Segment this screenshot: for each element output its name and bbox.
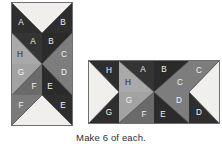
patch-label-H: H	[106, 66, 112, 75]
horizontal-block: H G A H B C	[88, 60, 220, 124]
patch-label-E: E	[47, 82, 53, 91]
vertical-pinwheel-bottom-right: D E	[42, 64, 72, 95]
vertical-pinwheel-top-left: A H	[12, 33, 42, 64]
horizontal-pinwheel-bottom-left: G F	[119, 92, 154, 123]
quilt-block-diagram: A B A H B C	[0, 0, 222, 151]
patch-label-F: F	[18, 101, 23, 110]
horizontal-right-white-triangle-unit: C D	[189, 61, 219, 123]
patch-label-B: B	[161, 65, 167, 74]
patch-label-A: A	[30, 37, 36, 46]
patch-label-F: F	[31, 82, 36, 91]
vertical-pinwheel-top-right: B C	[42, 33, 72, 64]
patch-label-B: B	[48, 37, 54, 46]
patch-label-D: D	[196, 108, 202, 117]
vertical-block: A B A H B C	[11, 2, 73, 126]
vertical-bottom-white-triangle-unit: F E	[12, 95, 72, 125]
patch-label-A: A	[140, 65, 146, 74]
patch-label-E: E	[60, 101, 66, 110]
horizontal-pinwheel-top-right: B C	[154, 61, 189, 92]
patch-label-H: H	[17, 50, 23, 59]
patch-label-G: G	[126, 96, 132, 105]
patch-label-G: G	[18, 68, 24, 77]
patch-label-D: D	[176, 96, 182, 105]
vertical-pinwheel-bottom-left: G F	[12, 64, 42, 95]
horizontal-left-white-triangle-unit: H G	[89, 61, 119, 123]
patch-label-C: C	[61, 50, 67, 59]
horizontal-pinwheel-bottom-right: D E	[154, 92, 189, 123]
patch-label-A: A	[18, 18, 24, 27]
patch-label-F: F	[141, 110, 146, 119]
vertical-top-white-triangle-unit: A B	[12, 3, 72, 33]
patch-label-C: C	[196, 66, 202, 75]
patch-label-E: E	[160, 110, 166, 119]
caption-text: Make 6 of each.	[0, 132, 222, 143]
patch-label-G: G	[106, 108, 112, 117]
patch-label-C: C	[177, 78, 183, 87]
horizontal-pinwheel-top-left: A H	[119, 61, 154, 92]
patch-label-B: B	[60, 18, 66, 27]
patch-label-H: H	[125, 78, 131, 87]
patch-label-D: D	[61, 68, 67, 77]
